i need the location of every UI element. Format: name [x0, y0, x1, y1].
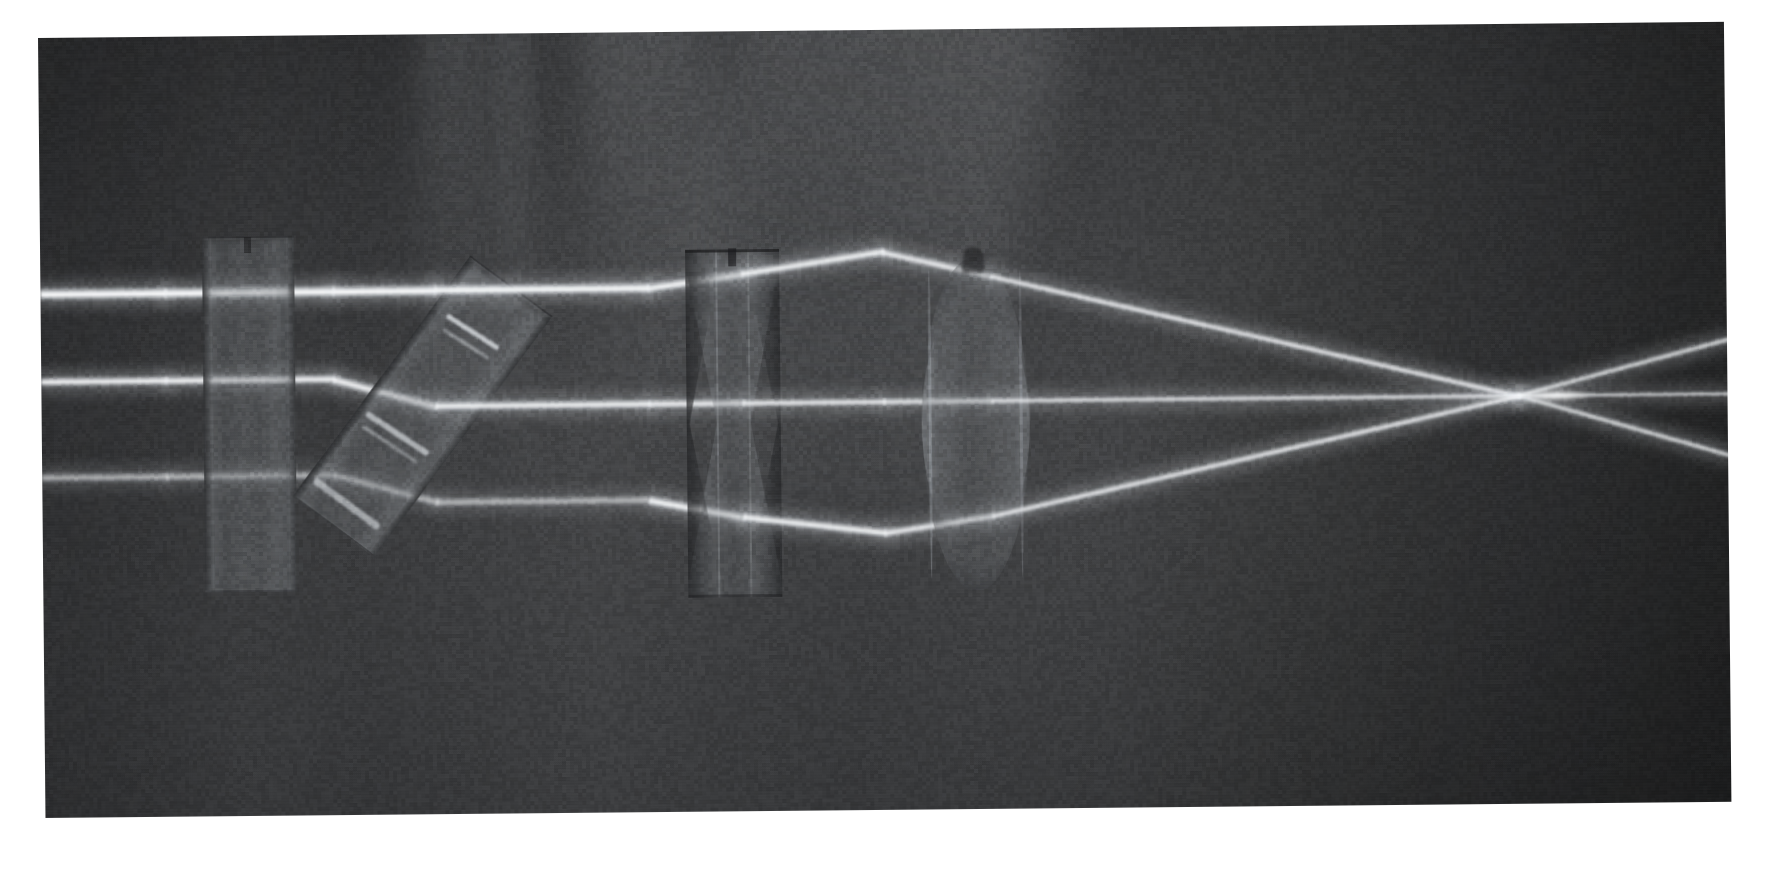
background-shading	[38, 22, 1731, 818]
focal-point-caustic	[1520, 389, 1592, 402]
screenshot-root: Laser ray optics demonstration on an opt…	[0, 0, 1776, 872]
scattered-light-streak-b	[493, 22, 538, 514]
scattered-light-streak-a	[418, 22, 492, 395]
photographic-print	[38, 22, 1731, 818]
